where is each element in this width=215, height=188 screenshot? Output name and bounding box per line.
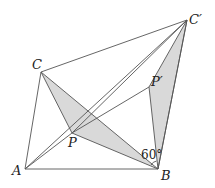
label-a: A [11,163,21,178]
label-c1: C′ [189,12,202,27]
geometry-diagram: A B C C′ P P′ 60° [0,0,215,188]
segment-ac [25,72,41,169]
segment-ap [25,133,72,169]
label-p1: P′ [150,74,163,89]
label-p: P [67,135,77,150]
label-b: B [160,168,171,183]
angle-label: 60° [141,148,162,162]
label-c: C [32,57,42,72]
shaded-triangle-p1c1b [149,20,187,169]
